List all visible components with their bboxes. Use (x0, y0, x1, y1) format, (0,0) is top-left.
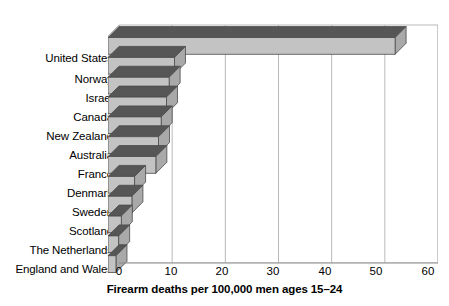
category-label-the-netherlands: The Netherlands (0, 245, 113, 256)
bar-top-face (108, 46, 185, 57)
xtick-label-50: 50 (361, 265, 391, 277)
xtick-label-10: 10 (156, 265, 186, 277)
category-label-scotland: Scotland (0, 226, 113, 237)
xtick-label-20: 20 (207, 265, 237, 277)
firearm-deaths-bar-chart: United States Norway Israel Canada New Z… (0, 0, 449, 306)
category-label-england-and-wales: England and Wales (0, 264, 113, 275)
category-label-australia: Australia (0, 150, 113, 161)
bar-top-face (108, 27, 406, 38)
category-label-denmark: Denmark (0, 188, 113, 199)
x-axis-title: Firearm deaths per 100,000 men ages 15–2… (0, 283, 449, 295)
xtick-label-0: 0 (104, 265, 134, 277)
category-axis-labels: United States Norway Israel Canada New Z… (0, 25, 113, 263)
bar-top-face (108, 86, 177, 97)
category-label-sweden: Sweden (0, 207, 113, 218)
category-label-canada: Canada (0, 112, 113, 123)
xtick-label-30: 30 (258, 265, 288, 277)
category-label-israel: Israel (0, 93, 113, 104)
xtick-label-40: 40 (310, 265, 340, 277)
bar-top-face (108, 66, 180, 77)
category-label-new-zealand: New Zealand (0, 131, 113, 142)
plot-svg (108, 18, 438, 273)
plot-area (108, 18, 438, 273)
category-label-united-states: United States (0, 53, 113, 64)
xtick-label-60: 60 (413, 265, 443, 277)
category-label-france: France (0, 169, 113, 180)
category-label-norway: Norway (0, 74, 113, 85)
